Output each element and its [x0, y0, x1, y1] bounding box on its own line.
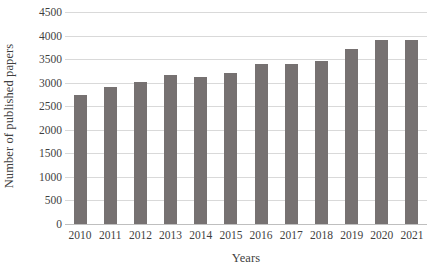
- bar-2010[interactable]: [74, 95, 87, 223]
- x-axis-tick-label: 2018: [306, 228, 336, 246]
- bars-layer: [65, 12, 427, 224]
- bar-slot: [306, 12, 336, 224]
- bar-2021[interactable]: [405, 40, 418, 223]
- x-axis-title: Years: [65, 251, 427, 266]
- y-axis-tick-label: 1000: [18, 171, 62, 183]
- y-axis-tick-labels: 050010001500200025003000350040004500: [18, 0, 62, 275]
- bar-2012[interactable]: [134, 82, 147, 223]
- bar-slot: [397, 12, 427, 224]
- y-axis-tick-label: 3000: [18, 77, 62, 89]
- bar-2020[interactable]: [375, 40, 388, 224]
- x-axis-tick-label: 2012: [125, 228, 155, 246]
- bar-2018[interactable]: [315, 61, 328, 224]
- x-axis-tick-label: 2013: [156, 228, 186, 246]
- bar-2013[interactable]: [164, 75, 177, 223]
- plot-area: [65, 12, 427, 224]
- y-axis-tick-label: 1500: [18, 147, 62, 159]
- bar-slot: [276, 12, 306, 224]
- y-axis-tick-label: 4500: [18, 6, 62, 18]
- bar-slot: [186, 12, 216, 224]
- bar-slot: [246, 12, 276, 224]
- y-axis-tick-label: 500: [18, 194, 62, 206]
- x-axis-tick-labels: 2010201120122013201420152016201720182019…: [65, 228, 427, 246]
- bar-chart: Number of published papers 0500100015002…: [0, 0, 435, 275]
- bar-2011[interactable]: [104, 87, 117, 224]
- y-axis-tick-label: 4000: [18, 30, 62, 42]
- x-axis-tick-label: 2019: [337, 228, 367, 246]
- bar-slot: [95, 12, 125, 224]
- y-axis-tick-label: 0: [18, 218, 62, 230]
- x-axis-tick-label: 2011: [95, 228, 125, 246]
- bar-slot: [125, 12, 155, 224]
- x-axis-tick-label: 2017: [276, 228, 306, 246]
- x-axis-tick-label: 2014: [186, 228, 216, 246]
- y-axis-tick-label: 2000: [18, 124, 62, 136]
- bar-slot: [156, 12, 186, 224]
- x-axis-tick-label: 2020: [367, 228, 397, 246]
- bar-slot: [216, 12, 246, 224]
- x-axis-tick-label: 2021: [397, 228, 427, 246]
- y-axis-title: Number of published papers: [0, 0, 18, 232]
- x-axis-tick-label: 2015: [216, 228, 246, 246]
- bar-slot: [65, 12, 95, 224]
- gridline: [65, 224, 427, 225]
- y-axis-tick-label: 3500: [18, 53, 62, 65]
- bar-2017[interactable]: [285, 64, 298, 223]
- x-axis-tick-label: 2016: [246, 228, 276, 246]
- y-axis-tick-label: 2500: [18, 100, 62, 112]
- bar-2015[interactable]: [224, 73, 237, 224]
- bar-2016[interactable]: [255, 64, 268, 223]
- bar-slot: [367, 12, 397, 224]
- bar-slot: [337, 12, 367, 224]
- bar-2019[interactable]: [345, 49, 358, 223]
- bar-2014[interactable]: [194, 77, 207, 224]
- x-axis-tick-label: 2010: [65, 228, 95, 246]
